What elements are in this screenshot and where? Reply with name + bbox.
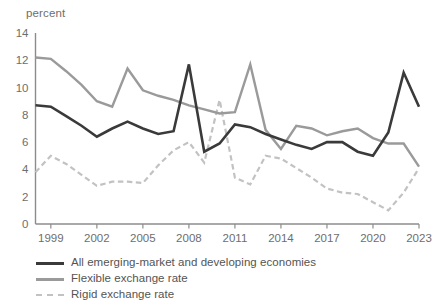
legend-label-flexible-exchange-rate: Flexible exchange rate	[71, 272, 188, 284]
chart-legend: All emerging-market and developing econo…	[36, 254, 436, 302]
x-axis-tick-label: 2011	[223, 232, 248, 244]
y-axis-tick-label: 12	[16, 54, 29, 66]
legend-label-rigid-exchange-rate: Rigid exchange rate	[71, 288, 174, 300]
x-axis-tick-label: 2020	[360, 232, 386, 244]
y-axis-tick-label: 0	[22, 218, 28, 230]
series-line-flexible-exchange-rate	[36, 58, 420, 167]
x-axis-tick-label: 2005	[130, 232, 156, 244]
x-axis-tick-label: 2023	[406, 232, 432, 244]
x-axis-tick-label: 2017	[314, 232, 340, 244]
legend-item-all-economies: All emerging-market and developing econo…	[36, 254, 436, 270]
y-axis-tick-label: 2	[22, 191, 28, 203]
y-axis-tick-label: 14	[16, 27, 29, 39]
x-axis-tick-label: 2002	[84, 232, 110, 244]
chart-figure: percent 02468101214199920022005200820112…	[0, 0, 446, 306]
y-axis-tick-label: 4	[22, 163, 29, 175]
x-axis-tick-label: 2008	[176, 232, 202, 244]
legend-swatch-dashed-icon	[36, 288, 64, 300]
line-chart-plot: 0246810121419992002200520082011201420172…	[0, 0, 446, 250]
y-axis-tick-label: 6	[22, 136, 28, 148]
x-axis-tick-label: 2014	[268, 232, 294, 244]
legend-swatch-solid-dark-icon	[36, 256, 64, 268]
legend-swatch-solid-gray-icon	[36, 272, 64, 284]
x-axis-tick-label: 1999	[38, 232, 64, 244]
y-axis-tick-label: 8	[22, 109, 28, 121]
legend-item-rigid-exchange-rate: Rigid exchange rate	[36, 286, 436, 302]
legend-label-all-economies: All emerging-market and developing econo…	[71, 256, 316, 268]
y-axis-tick-label: 10	[16, 82, 29, 94]
series-line-rigid-exchange-rate	[36, 100, 420, 211]
legend-item-flexible-exchange-rate: Flexible exchange rate	[36, 270, 436, 286]
